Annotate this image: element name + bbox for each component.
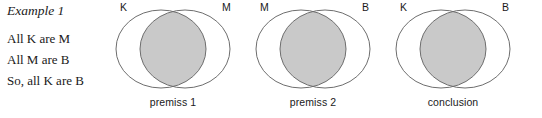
caption-premiss-1: premiss 1 — [112, 96, 234, 108]
venn-svg-premiss-2: M B — [252, 0, 374, 96]
caption-premiss-2: premiss 2 — [252, 96, 374, 108]
argument-line-2: All M are B — [7, 49, 112, 70]
venn-svg-conclusion: K B — [392, 0, 514, 96]
venn-svg-premiss-1: K M — [112, 0, 234, 96]
shaded-region-left-only — [280, 11, 346, 86]
example-title: Example 1 — [7, 0, 112, 18]
caption-conclusion: conclusion — [392, 96, 514, 108]
venn-diagram-conclusion: K B conclusion — [392, 0, 514, 118]
venn-diagram-premiss-1: K M premiss 1 — [112, 0, 234, 118]
argument-line-1: All K are M — [7, 28, 112, 49]
argument-line-3: So, all K are B — [7, 70, 112, 91]
left-set-label: M — [260, 1, 269, 13]
argument-text-block: Example 1 All K are M All M are B So, al… — [7, 0, 112, 91]
left-set-label: K — [400, 1, 407, 13]
shaded-region-left-only — [140, 11, 206, 86]
argument-lines: All K are M All M are B So, all K are B — [7, 28, 112, 91]
venn-diagram-premiss-2: M B premiss 2 — [252, 0, 374, 118]
right-set-label: B — [502, 1, 509, 13]
right-set-label: B — [362, 1, 369, 13]
right-set-label: M — [222, 1, 231, 13]
left-set-label: K — [120, 1, 127, 13]
shaded-region-left-only — [420, 11, 486, 86]
venn-syllogism-figure: Example 1 All K are M All M are B So, al… — [0, 0, 542, 118]
